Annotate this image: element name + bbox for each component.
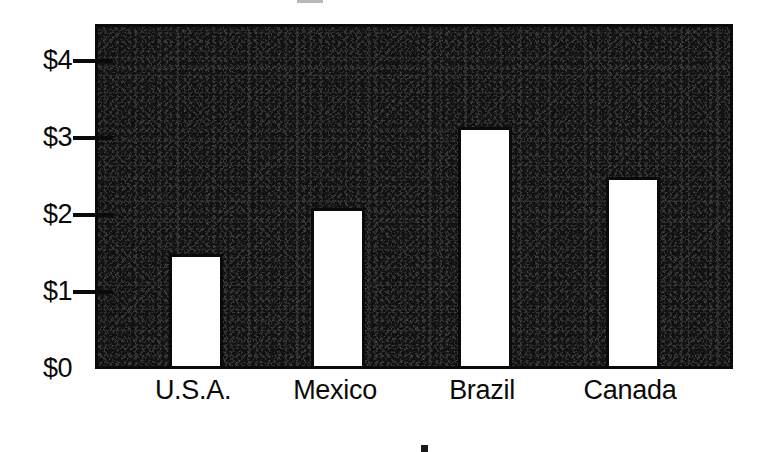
bar-mexico [311,208,365,366]
y-tick-label-3: $3 [26,124,72,151]
y-tick-label-2: $2 [26,201,72,228]
bar-canada [606,177,660,366]
bottom-crop-artifact [421,445,428,452]
bar-u-s-a [169,254,223,366]
y-tick-mark-2 [73,213,113,217]
y-tick-mark-1 [73,290,113,294]
bar-chart-figure: $4$3$2$1$0 U.S.A.MexicoBrazilCanada [0,0,757,452]
y-tick-mark-3 [73,136,113,140]
y-tick-mark-4 [73,59,113,63]
x-tick-label-canada: Canada [540,377,720,404]
plot-area [95,24,733,369]
y-tick-label-1: $1 [26,278,72,305]
bar-brazil [458,127,512,366]
y-tick-label-4: $4 [26,47,72,74]
top-crop-artifact [297,0,323,3]
y-tick-label-0: $0 [26,355,72,382]
